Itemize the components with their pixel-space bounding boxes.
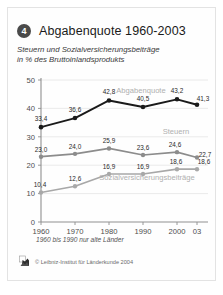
page-title: Abgabenquote 1960-2003 bbox=[39, 24, 186, 38]
credit-line: © Leibniz-Institut für Länderkunde 2004 bbox=[18, 255, 133, 268]
figure-number-badge: 4 bbox=[17, 24, 31, 38]
subtitle-line-1: Steuern und Sozialversicherungsbeiträge bbox=[17, 45, 202, 55]
chart-card: 4 Abgabenquote 1960-2003 Steuern und Soz… bbox=[0, 0, 223, 295]
credit-text: © Leibniz-Institut für Länderkunde 2004 bbox=[35, 259, 133, 265]
ifl-logo-icon bbox=[18, 255, 31, 268]
card-header: 4 Abgabenquote 1960-2003 bbox=[17, 24, 186, 38]
subtitle-line-2: in % des Bruttoinlandsprodukts bbox=[17, 55, 202, 65]
chart-footnote: 1960 bis 1990 nur alte Länder bbox=[36, 236, 124, 243]
chart-subtitle: Steuern und Sozialversicherungsbeiträge … bbox=[17, 45, 202, 64]
